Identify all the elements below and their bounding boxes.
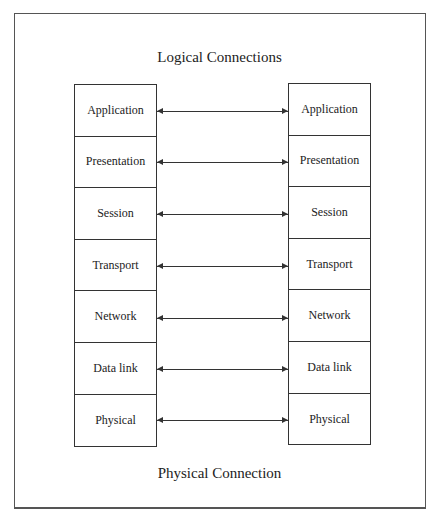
left-layer-application: Application [75,85,156,137]
arrow-session [157,214,288,215]
right-layer-data-link: Data link [289,342,370,394]
logical-connections-label: Logical Connections [0,49,439,66]
arrow-presentation [157,162,288,163]
left-layer-session: Session [75,188,156,240]
right-layer-physical: Physical [289,394,370,446]
arrow-data-link [157,369,288,370]
right-layer-session: Session [289,187,370,239]
arrow-network [157,318,288,319]
right-layer-transport: Transport [289,239,370,291]
physical-connection-label: Physical Connection [0,465,439,482]
left-layer-network: Network [75,291,156,343]
right-layer-presentation: Presentation [289,136,370,188]
arrow-physical [157,420,288,421]
left-layer-transport: Transport [75,240,156,292]
left-layer-presentation: Presentation [75,137,156,189]
arrow-transport [157,266,288,267]
right-osi-stack: Application Presentation Session Transpo… [288,83,371,445]
right-layer-network: Network [289,290,370,342]
left-osi-stack: Application Presentation Session Transpo… [74,84,157,447]
left-layer-physical: Physical [75,395,156,447]
left-layer-data-link: Data link [75,343,156,395]
arrow-application [157,111,288,112]
right-layer-application: Application [289,84,370,136]
